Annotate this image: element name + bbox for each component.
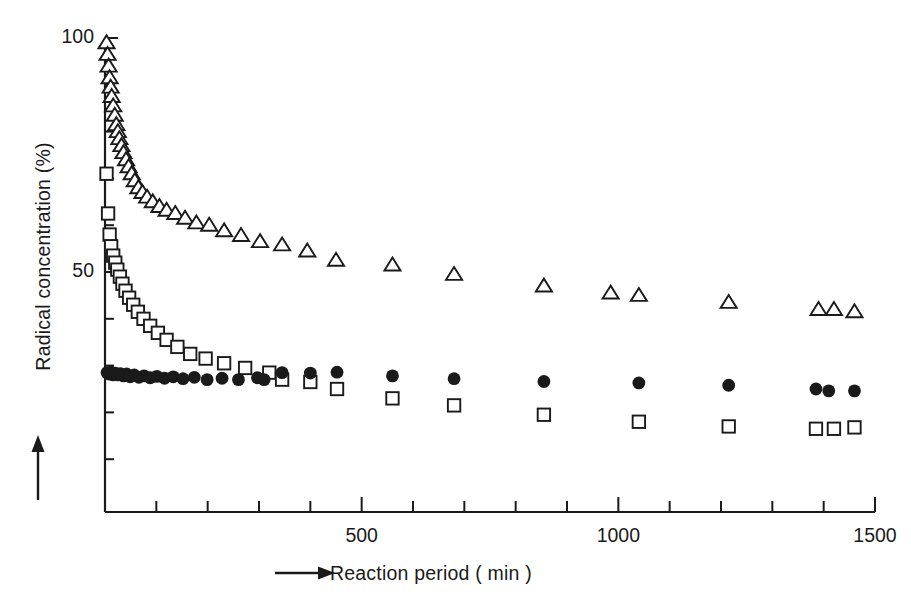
data-point-square	[102, 207, 114, 219]
data-point-triangle	[216, 223, 232, 236]
data-point-square	[810, 423, 822, 435]
data-point-square	[848, 421, 860, 433]
y-axis-label: Radical concentration (%)	[32, 107, 55, 407]
data-point-circle	[448, 372, 461, 385]
data-point-triangle	[826, 302, 842, 315]
data-point-circle	[386, 369, 399, 382]
data-point-circle	[304, 367, 317, 380]
series-open-triangle-series	[98, 35, 862, 317]
data-point-circle	[258, 373, 271, 386]
data-point-circle	[201, 373, 214, 386]
data-point-circle	[232, 373, 245, 386]
data-point-triangle	[252, 234, 268, 247]
data-point-triangle	[721, 295, 737, 308]
data-point-circle	[538, 375, 551, 388]
data-point-triangle	[631, 288, 647, 301]
data-point-square	[199, 352, 211, 364]
data-point-triangle	[233, 228, 249, 241]
data-point-square	[100, 168, 112, 180]
data-point-circle	[848, 384, 861, 397]
data-point-square	[723, 420, 735, 432]
data-point-circle	[331, 366, 344, 379]
data-point-triangle	[846, 304, 862, 317]
data-point-circle	[276, 366, 289, 379]
data-point-triangle	[603, 286, 619, 299]
data-point-circle	[822, 384, 835, 397]
data-point-square	[386, 392, 398, 404]
data-point-triangle	[201, 218, 217, 231]
data-point-triangle	[384, 258, 400, 271]
data-point-triangle	[299, 244, 315, 257]
data-series-layer	[98, 35, 862, 435]
data-point-triangle	[328, 253, 344, 266]
data-point-square	[239, 362, 251, 374]
x-tick-label-500: 500	[312, 524, 412, 547]
chart-root: Radical concentration (%) Reaction perio…	[0, 0, 911, 612]
series-open-square-series	[100, 168, 860, 435]
data-point-circle	[810, 383, 823, 396]
data-point-square	[828, 423, 840, 435]
up-arrow-icon	[32, 435, 45, 500]
data-point-triangle	[810, 302, 826, 315]
chart-canvas	[0, 0, 911, 612]
right-arrow-icon	[275, 567, 335, 580]
x-tick-label-1000: 1000	[568, 524, 668, 547]
data-point-circle	[216, 372, 229, 385]
data-point-square	[448, 399, 460, 411]
data-point-circle	[188, 371, 201, 384]
data-point-triangle	[274, 237, 290, 250]
series-filled-circle-series	[101, 366, 861, 398]
axes-layer	[105, 38, 875, 512]
annotation-layer	[32, 435, 336, 580]
y-tick-label-50: 50	[28, 259, 94, 282]
data-point-square	[331, 383, 343, 395]
x-axis-label: Reaction period ( min )	[330, 562, 532, 585]
data-point-square	[103, 228, 115, 240]
y-tick-label-100: 100	[28, 25, 94, 48]
data-point-circle	[632, 377, 645, 390]
data-point-square	[218, 357, 230, 369]
data-point-square	[184, 348, 196, 360]
data-point-circle	[722, 379, 735, 392]
data-point-circle	[177, 372, 190, 385]
x-tick-label-1500: 1500	[825, 524, 911, 547]
data-point-square	[171, 341, 183, 353]
data-point-square	[633, 416, 645, 428]
data-point-triangle	[536, 279, 552, 292]
data-point-square	[538, 409, 550, 421]
data-point-triangle	[446, 267, 462, 280]
